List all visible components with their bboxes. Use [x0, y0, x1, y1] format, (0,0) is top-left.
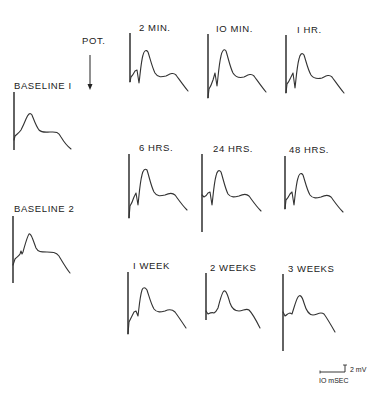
waveform-trace [206, 291, 260, 328]
waveform-trace [286, 54, 344, 93]
panel-label: 3 WEEKS [288, 263, 334, 274]
panel-1-week: I WEEK [128, 260, 186, 334]
panel-48-hrs: 48 HRS. [285, 144, 343, 212]
pot-label: POT. [82, 35, 106, 46]
panel-label: 2 WEEKS [210, 262, 256, 273]
waveform-trace [14, 114, 71, 149]
panel-label: I WEEK [133, 260, 170, 271]
panel-3-weeks: 3 WEEKS [283, 263, 335, 351]
panel-label: BASELINE I [14, 80, 72, 91]
waveform-trace [285, 174, 343, 212]
panel-label: 48 HRS. [289, 144, 329, 155]
panel-24-hrs: 24 HRS. [202, 143, 261, 232]
arrow-head-icon [88, 84, 93, 90]
panel-label: 2 MIN. [139, 22, 171, 33]
scale-bar: 2 mV IO mSEC [319, 365, 367, 384]
panel-6-hrs: 6 HRS. [129, 142, 187, 218]
panel-label: I HR. [297, 24, 322, 35]
waveform-trace [128, 288, 186, 334]
panel-baseline-2: BASELINE 2 [13, 203, 74, 283]
panel-baseline-1: BASELINE I [14, 80, 72, 150]
panel-2-min: 2 MIN. [130, 22, 188, 91]
potentiation-marker: POT. [82, 35, 106, 90]
panel-label: BASELINE 2 [14, 203, 74, 214]
panel-2-weeks: 2 WEEKS [206, 262, 260, 328]
voltage-scale-label: 2 mV [350, 366, 367, 373]
waveform-trace [202, 171, 261, 211]
evoked-potential-figure: POT. BASELINE I BASELINE 2 2 MIN. IO MIN… [0, 0, 381, 393]
waveform-trace [283, 296, 335, 332]
panel-1-hr: I HR. [286, 24, 344, 93]
waveform-trace [208, 50, 266, 98]
panel-label: IO MIN. [216, 23, 253, 34]
waveform-trace [13, 234, 70, 273]
panel-10-min: IO MIN. [208, 23, 266, 98]
time-scale-label: IO mSEC [319, 377, 349, 384]
panel-label: 6 HRS. [139, 142, 173, 153]
waveform-trace [130, 51, 188, 91]
waveform-trace [129, 169, 187, 218]
panel-label: 24 HRS. [213, 143, 253, 154]
